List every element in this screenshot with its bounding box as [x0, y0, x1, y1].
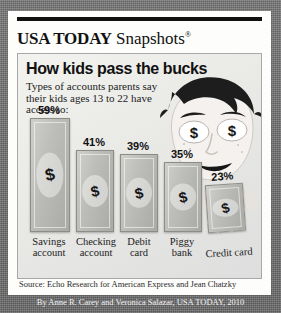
snapshot-card: USA TODAY Snapshots® How kids pass the b… — [8, 11, 271, 295]
bar-value-label: 41% — [83, 136, 105, 148]
category-line: bank — [163, 247, 201, 258]
category-line: Checking — [70, 236, 122, 247]
category-line: account — [24, 247, 74, 258]
brand-usatoday: USA TODAY — [17, 29, 112, 48]
bar-value-label: 23% — [211, 169, 234, 183]
brand-snapshots: Snapshots — [112, 29, 185, 48]
dollar-bill-bar: $ — [164, 162, 202, 232]
category-line: account — [70, 247, 122, 258]
category-label-savings-account: Savings account — [24, 236, 74, 258]
category-label-debit-card: Debit card — [121, 236, 157, 258]
category-line: Debit — [121, 236, 157, 247]
brand-title: USA TODAY Snapshots® — [17, 25, 262, 49]
dollar-bill-bar: $ — [76, 150, 114, 232]
dollar-bill-bar: $ — [120, 154, 158, 232]
bar-piggy-bank: 35% $ — [164, 162, 200, 230]
registered-trademark-icon: ® — [185, 30, 191, 39]
masthead: USA TODAY Snapshots® — [17, 17, 262, 49]
dollar-bill-bar: $ — [30, 118, 70, 232]
category-label-piggy-bank: Piggy bank — [163, 236, 201, 258]
category-line: Savings — [24, 236, 74, 247]
category-labels: Savings account Checking account Debit c… — [18, 236, 261, 268]
category-line: Piggy — [163, 236, 201, 247]
dollar-bill-bar: $ — [205, 183, 246, 234]
masthead-rule — [17, 17, 262, 21]
bar-savings-account: 59% $ — [30, 118, 68, 230]
byline: By Anne R. Carey and Veronica Salazar, U… — [0, 297, 281, 307]
category-line: card — [121, 247, 157, 258]
category-line: Credit card — [198, 245, 260, 259]
category-label-credit-card: Credit card — [198, 245, 260, 259]
bar-value-label: 35% — [171, 148, 193, 160]
source-note: Source: Echo Research for American Expre… — [19, 279, 255, 289]
chart-panel: How kids pass the bucks Types of account… — [17, 53, 262, 279]
bar-debit-card: 39% $ — [120, 154, 156, 230]
snapshot-infographic: USA TODAY Snapshots® How kids pass the b… — [0, 0, 281, 313]
bar-credit-card: 23% $ — [205, 183, 244, 231]
bar-value-label: 39% — [127, 140, 149, 152]
bar-checking-account: 41% $ — [76, 150, 112, 230]
bar-value-label: 59% — [38, 104, 60, 116]
category-label-checking-account: Checking account — [70, 236, 122, 258]
